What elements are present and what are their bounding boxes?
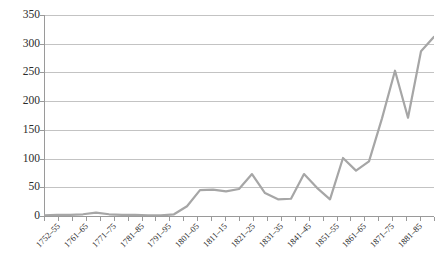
x-axis-tick-mark [392,217,393,221]
y-axis-tick-label: 100 [23,153,40,165]
x-axis-tick-mark [169,217,170,221]
x-axis-tick-mark [420,217,421,221]
x-axis-tick-mark [281,217,282,221]
y-axis-tick-mark [40,44,44,45]
x-axis-tick-mark [364,217,365,221]
y-axis-tick-label: 200 [23,95,40,107]
x-axis-tick-mark [86,217,87,221]
x-axis-tick-mark [378,217,379,221]
x-axis-tick-label: 1761–65 [62,221,90,249]
x-axis-tick-mark [434,217,435,221]
x-axis-tick-mark [309,217,310,221]
x-axis-tick-label: 1861–65 [340,221,368,249]
y-axis-tick-mark [40,101,44,102]
x-axis-tick-mark [58,217,59,221]
x-axis-tick-label: 1851–55 [312,221,340,249]
x-axis-tick-label: 1831–35 [257,221,285,249]
x-axis-tick-mark [267,217,268,221]
x-axis-tick-mark [406,217,407,221]
x-axis-tick-label: 1871–75 [368,221,396,249]
x-axis-tick-mark [100,217,101,221]
x-axis-tick-mark [197,217,198,221]
y-axis-tick-label: 50 [29,182,41,194]
y-axis-tick-mark [40,15,44,16]
y-axis-tick-mark [40,72,44,73]
data-line-series [44,15,434,216]
x-axis-tick-mark [253,217,254,221]
x-axis-tick-label: 1811–15 [201,221,229,249]
x-axis-tick-label: 1821–25 [229,221,257,249]
x-axis-tick-mark [295,217,296,221]
y-axis-tick-mark [40,159,44,160]
x-axis-tick-mark [350,217,351,221]
x-axis-tick-label: 1841–45 [284,221,312,249]
y-axis-tick-label: 350 [23,9,40,21]
y-axis-tick-label: 150 [23,124,40,136]
x-axis-tick-mark [211,217,212,221]
line-chart: 050100150200250300350 1752–551761–651771… [0,0,438,272]
x-axis-tick-mark [183,217,184,221]
y-axis-tick-mark [40,216,44,217]
x-axis-tick-mark [142,217,143,221]
x-axis-tick-mark [44,217,45,221]
x-axis-tick-mark [337,217,338,221]
y-axis-tick-label: 300 [23,38,40,50]
y-axis-tick-label: 250 [23,67,40,79]
x-axis-tick-mark [128,217,129,221]
x-axis-tick-mark [155,217,156,221]
x-axis-tick-label: 1781–85 [117,221,145,249]
y-axis-tick-labels: 050100150200250300350 [0,0,40,272]
x-axis-tick-mark [239,217,240,221]
y-axis-tick-mark [40,130,44,131]
x-axis-tick-mark [114,217,115,221]
x-axis-tick-label: 1791–95 [145,221,173,249]
x-axis-tick-label: 1801–05 [173,221,201,249]
y-axis-tick-mark [40,187,44,188]
x-axis-tick-label: 1881–85 [396,221,424,249]
x-axis-tick-label: 1771–75 [89,221,117,249]
x-axis-tick-mark [225,217,226,221]
series-line [44,37,434,216]
x-axis-tick-mark [323,217,324,221]
x-axis-tick-mark [72,217,73,221]
